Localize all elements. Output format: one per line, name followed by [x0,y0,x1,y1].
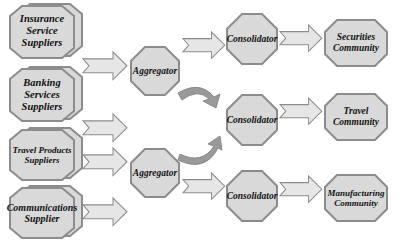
supplier-banking-node: Banking Services Suppliers [8,67,80,119]
arrow-aggregator1-to-consolidator1 [183,32,225,58]
curved-arrow-aggregator1-to-consolidator2 [178,87,220,108]
community-travel-node: Travel Community [324,93,388,141]
arrow-communications-to-aggregator [83,198,127,226]
aggregator-2-label: Aggregator [130,148,180,198]
consolidator-1-label: Consolidator [226,13,278,65]
curved-arrow-aggregator2-to-consolidator2 [178,136,222,164]
supplier-insurance-node: Insurance Service Suppliers [8,4,80,56]
aggregator-2-node: Aggregator [130,148,180,198]
consolidator-3-label: Consolidator [226,170,278,222]
consolidator-1-node: Consolidator [226,13,278,65]
supplier-insurance-label: Insurance Service Suppliers [6,5,78,57]
supplier-communications-node: Communications Supplier [8,186,80,236]
community-securities-label: Securities Community [324,19,388,67]
supplier-travel-label: Travel Products Suppliers [6,130,78,180]
aggregator-1-node: Aggregator [130,46,180,96]
supplier-banking-label: Banking Services Suppliers [6,69,78,121]
arrow-consolidator1-to-securities [280,25,322,51]
community-securities-node: Securities Community [324,19,388,67]
community-manufacturing-node: Manufacturing Community [324,174,388,222]
arrow-travel-to-aggregator [83,148,127,176]
arrow-banking-to-aggregator [83,114,127,142]
aggregator-1-label: Aggregator [130,46,180,96]
consolidator-3-node: Consolidator [226,170,278,222]
community-travel-label: Travel Community [324,93,388,141]
consolidator-2-node: Consolidator [226,94,278,146]
consolidator-2-label: Consolidator [226,94,278,146]
arrow-insurance-to-aggregator [83,52,127,80]
community-manufacturing-label: Manufacturing Community [324,174,388,222]
arrow-consolidator2-to-travel [280,98,322,124]
supplier-travel-node: Travel Products Suppliers [8,128,80,178]
arrow-aggregator2-to-consolidator3 [183,173,225,199]
supplier-communications-label: Communications Supplier [6,188,78,238]
arrow-consolidator3-to-manufacturing [280,176,322,202]
